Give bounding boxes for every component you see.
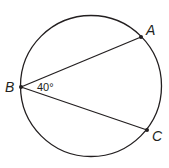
label-a: A bbox=[145, 22, 155, 38]
point-c bbox=[145, 128, 149, 132]
point-a bbox=[139, 35, 143, 39]
point-b bbox=[19, 85, 23, 89]
inscribed-angle-diagram: A B C 40° bbox=[0, 0, 169, 168]
label-b: B bbox=[5, 79, 14, 95]
chord-ba bbox=[21, 37, 141, 87]
chord-bc bbox=[21, 87, 147, 130]
angle-label: 40° bbox=[37, 81, 54, 93]
label-c: C bbox=[152, 128, 163, 144]
